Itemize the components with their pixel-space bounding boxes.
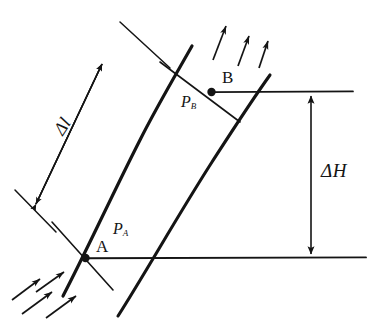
streamline-right bbox=[118, 75, 270, 316]
flow-arrows-top bbox=[213, 26, 268, 68]
flow-arrow-top-2 bbox=[238, 36, 249, 66]
flow-arrows-bottom bbox=[12, 272, 76, 318]
label-point-a: A bbox=[96, 238, 108, 255]
flow-arrow-top-1 bbox=[213, 26, 226, 60]
label-pressure-a: PA bbox=[113, 221, 128, 238]
point-b-dot bbox=[207, 88, 215, 96]
label-pressure-b: PB bbox=[181, 94, 196, 111]
cross-section-lines bbox=[52, 62, 240, 290]
flow-arrow-bottom-3 bbox=[36, 272, 64, 292]
label-pressure-a-base: P bbox=[113, 220, 123, 237]
label-pressure-b-base: P bbox=[181, 93, 191, 110]
lower-datum-line bbox=[86, 257, 367, 258]
flow-arrow-bottom-4 bbox=[46, 296, 76, 318]
label-pressure-b-subscript: B bbox=[191, 101, 197, 111]
figure-canvas: A B PA PB ΔH Δl bbox=[0, 0, 381, 320]
label-pressure-a-subscript: A bbox=[123, 228, 129, 238]
streamline-curves bbox=[63, 46, 270, 316]
flow-arrow-top-3 bbox=[259, 41, 268, 68]
flow-arrow-bottom-1 bbox=[12, 279, 40, 300]
flow-arrow-bottom-2 bbox=[22, 292, 52, 314]
upper-datum-line bbox=[212, 91, 354, 92]
label-point-b: B bbox=[222, 69, 234, 86]
point-a-dot bbox=[81, 254, 89, 262]
delta-length-tick-upper bbox=[120, 22, 170, 68]
delta-length-tick-lower bbox=[15, 190, 56, 232]
label-delta-height: ΔH bbox=[321, 161, 347, 180]
